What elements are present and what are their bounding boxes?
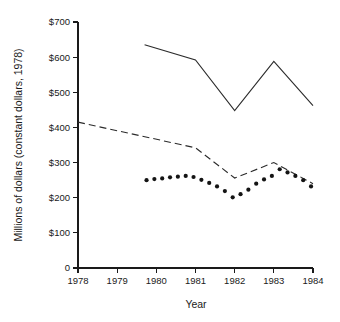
x-axis-title: Year xyxy=(185,298,207,310)
data-point-marker xyxy=(246,188,250,192)
data-point-marker xyxy=(168,175,172,179)
data-point-marker xyxy=(278,167,282,171)
data-point-marker xyxy=(152,177,156,181)
series-solid-line xyxy=(145,45,313,111)
x-tick-label-1981: 1981 xyxy=(185,275,206,286)
y-tick-label-600: $600 xyxy=(49,52,70,63)
data-point-marker xyxy=(238,192,242,196)
x-tick-label-1979: 1979 xyxy=(107,275,128,286)
y-tick-label-100: $100 xyxy=(49,227,70,238)
x-tick-label-1984: 1984 xyxy=(302,275,323,286)
x-axis-ticks xyxy=(78,268,313,273)
y-tick-label-300: $300 xyxy=(49,157,70,168)
data-point-marker xyxy=(254,182,258,186)
data-point-marker xyxy=(223,189,227,193)
y-tick-label-0: 0 xyxy=(65,262,70,273)
data-point-marker xyxy=(199,178,203,182)
y-axis-tick-labels: 0$100$200$300$400$500$600$700 xyxy=(49,16,70,273)
plot-series-group xyxy=(78,45,313,200)
data-point-marker xyxy=(191,175,195,179)
y-axis-title: Millions of dollars (constant dollars, 1… xyxy=(12,48,24,241)
data-point-marker xyxy=(285,170,289,174)
data-point-marker xyxy=(144,178,148,182)
x-tick-label-1978: 1978 xyxy=(67,275,88,286)
data-point-marker xyxy=(293,174,297,178)
data-point-marker xyxy=(262,177,266,181)
y-tick-label-500: $500 xyxy=(49,87,70,98)
y-tick-label-400: $400 xyxy=(49,122,70,133)
data-point-marker xyxy=(215,184,219,188)
x-axis-tick-labels: 1978197919801981198219831984 xyxy=(67,275,323,286)
data-point-marker xyxy=(309,184,313,188)
x-tick-label-1983: 1983 xyxy=(263,275,284,286)
x-axis-group: 1978197919801981198219831984 xyxy=(67,268,323,286)
y-tick-label-700: $700 xyxy=(49,16,70,27)
data-point-marker xyxy=(301,178,305,182)
x-tick-label-1980: 1980 xyxy=(146,275,167,286)
data-point-marker xyxy=(184,174,188,178)
series-dashed-line xyxy=(78,122,313,184)
data-point-marker xyxy=(160,176,164,180)
y-tick-label-200: $200 xyxy=(49,192,70,203)
data-point-marker xyxy=(207,181,211,185)
series-dotted-markers xyxy=(144,167,313,199)
data-point-marker xyxy=(176,175,180,179)
data-point-marker xyxy=(270,174,274,178)
y-axis-ticks xyxy=(73,22,78,268)
line-chart: 0$100$200$300$400$500$600$700 1978197919… xyxy=(0,0,340,322)
x-tick-label-1982: 1982 xyxy=(224,275,245,286)
y-axis-group: 0$100$200$300$400$500$600$700 xyxy=(49,16,78,273)
data-point-marker xyxy=(231,195,235,199)
chart-container: 0$100$200$300$400$500$600$700 1978197919… xyxy=(0,0,340,322)
